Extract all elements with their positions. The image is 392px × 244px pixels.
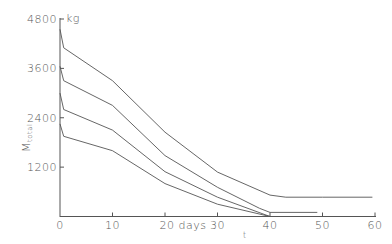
y-unit-label: kg <box>66 12 80 25</box>
x-tick-label: 0 <box>56 219 64 232</box>
data-series <box>60 29 372 216</box>
y-axis-title-main: M <box>20 142 33 152</box>
x-tick-label: 50 <box>315 219 330 232</box>
x-tick-label: 20 days <box>160 219 207 232</box>
series-line-curve-2 <box>60 66 317 212</box>
svg-text:Mtotal: Mtotal <box>20 123 34 152</box>
y-axis-title-sub: total <box>26 123 34 142</box>
mass-vs-time-chart: 1200240036004800 01020 days30405060 kg M… <box>0 0 392 244</box>
y-tick-label: 3600 <box>27 62 57 75</box>
y-tick-label: 1200 <box>27 161 57 174</box>
y-tick-label: 4800 <box>27 13 57 26</box>
x-tick-label: 30 <box>210 219 225 232</box>
y-axis-title: Mtotal <box>20 123 34 152</box>
x-tick-label: 60 <box>368 219 383 232</box>
x-axis-title: t <box>243 231 247 240</box>
series-line-curve-4 <box>60 124 270 217</box>
y-tick-label: 2400 <box>27 112 57 125</box>
x-tick-label: 10 <box>105 219 120 232</box>
x-tick-label: 40 <box>263 219 278 232</box>
series-line-curve-1 <box>60 29 372 197</box>
x-ticks: 01020 days30405060 <box>56 213 382 233</box>
